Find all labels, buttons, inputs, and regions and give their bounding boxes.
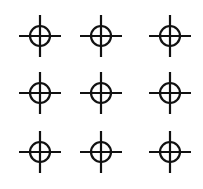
crosshair-icon [19, 72, 61, 114]
crosshair-icon [149, 131, 191, 173]
crosshair-icon [80, 15, 122, 57]
crosshair-icon [19, 131, 61, 173]
crosshair-icon [19, 15, 61, 57]
crosshair-icon [149, 72, 191, 114]
crosshair-grid [0, 0, 203, 189]
crosshair-icon [80, 131, 122, 173]
crosshair-icon [149, 15, 191, 57]
crosshair-icon [80, 72, 122, 114]
